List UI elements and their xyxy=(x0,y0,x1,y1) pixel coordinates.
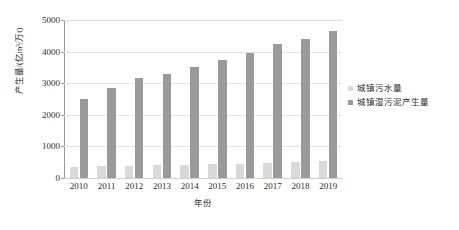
bar[interactable] xyxy=(180,165,189,178)
bar-group xyxy=(204,20,232,178)
bar-group xyxy=(148,20,176,178)
bar[interactable] xyxy=(97,166,106,178)
y-tick-label: 1000 xyxy=(42,141,60,151)
y-tick-label: 2000 xyxy=(42,110,60,120)
x-tick-label: 2018 xyxy=(291,181,309,191)
bar[interactable] xyxy=(291,162,300,178)
y-tick-mark xyxy=(61,83,64,84)
y-tick-label: 5000 xyxy=(42,15,60,25)
bar[interactable] xyxy=(125,166,134,178)
x-axis-title: 年份 xyxy=(64,196,342,208)
bar-group xyxy=(65,20,93,178)
bar[interactable] xyxy=(263,163,272,178)
bar-group xyxy=(259,20,287,178)
legend-item[interactable]: 城镇湿污泥产生量 xyxy=(348,97,458,108)
legend-item-label: 城镇湿污泥产生量 xyxy=(357,97,429,108)
bar[interactable] xyxy=(70,167,79,178)
y-tick-label: 3000 xyxy=(42,78,60,88)
bar[interactable] xyxy=(135,78,144,178)
bar-chart: 产生量/(亿m³/万t) 010002000300040005000 20102… xyxy=(0,0,459,230)
plot-area: 010002000300040005000 xyxy=(64,20,342,178)
gridline xyxy=(64,178,342,179)
x-tick-label: 2011 xyxy=(98,181,116,191)
legend: 城镇污水量 城镇湿污泥产生量 xyxy=(348,83,458,111)
y-tick-label: 0 xyxy=(56,173,61,183)
bar[interactable] xyxy=(329,31,338,178)
bar[interactable] xyxy=(80,99,89,178)
legend-swatch-icon xyxy=(348,100,353,105)
x-tick-label: 2014 xyxy=(181,181,199,191)
y-tick-mark xyxy=(61,52,64,53)
x-tick-label: 2012 xyxy=(125,181,143,191)
bar[interactable] xyxy=(208,164,217,178)
x-tick-label: 2013 xyxy=(153,181,171,191)
bars-layer xyxy=(65,20,342,178)
y-tick-label: 4000 xyxy=(42,47,60,57)
bar[interactable] xyxy=(273,44,282,178)
x-tick-label: 2017 xyxy=(264,181,282,191)
bar-group xyxy=(287,20,315,178)
y-axis-title: 产生量/(亿m³/万t) xyxy=(12,0,24,131)
y-tick-mark xyxy=(61,146,64,147)
y-tick-mark xyxy=(61,178,64,179)
bar[interactable] xyxy=(319,161,328,178)
bar-group xyxy=(314,20,342,178)
x-tick-label: 2019 xyxy=(319,181,337,191)
bar[interactable] xyxy=(236,164,245,178)
bar-group xyxy=(120,20,148,178)
y-tick-mark xyxy=(61,20,64,21)
x-tick-label: 2015 xyxy=(208,181,226,191)
bar[interactable] xyxy=(107,88,116,178)
x-tick-label: 2010 xyxy=(70,181,88,191)
bar[interactable] xyxy=(246,53,255,178)
bar[interactable] xyxy=(163,74,172,178)
x-axis-ticks: 2010201120122013201420152016201720182019 xyxy=(65,181,342,195)
bar-group xyxy=(176,20,204,178)
bar[interactable] xyxy=(301,39,310,178)
bar[interactable] xyxy=(218,60,227,179)
bar[interactable] xyxy=(153,165,162,178)
bar-group xyxy=(231,20,259,178)
bar[interactable] xyxy=(190,67,199,178)
y-tick-mark xyxy=(61,115,64,116)
legend-item[interactable]: 城镇污水量 xyxy=(348,83,458,94)
x-tick-label: 2016 xyxy=(236,181,254,191)
legend-swatch-icon xyxy=(348,86,353,91)
legend-item-label: 城镇污水量 xyxy=(357,83,402,94)
bar-group xyxy=(93,20,121,178)
